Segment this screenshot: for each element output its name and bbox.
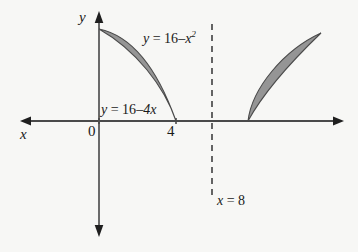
x-axis-arrow-left-icon: [20, 117, 31, 126]
x-axis-label: x: [20, 127, 27, 142]
line-equation-rest: 4x: [143, 102, 156, 117]
math-figure: y x 0 4 y = 16–x2 y = 16–4x x = 8: [0, 0, 358, 252]
y-axis-arrow-down-icon: [95, 225, 104, 237]
y-axis-arrow-up-icon: [95, 11, 104, 23]
x-axis: [20, 117, 344, 126]
curve-equation-exponent: 2: [191, 29, 196, 39]
x-tick-label-0: 0: [88, 124, 96, 139]
curve-equation-label: y = 16–x2: [143, 30, 196, 46]
line-equation-eq: = 16: [107, 102, 136, 117]
x-axis-arrow-right-icon: [333, 117, 344, 126]
curve-equation-eq: = 16: [149, 31, 178, 46]
shaded-region-right: [248, 33, 321, 121]
vertical-line-label: x = 8: [217, 194, 245, 208]
x-tick-label-4: 4: [167, 124, 175, 139]
line-equation-label: y = 16–4x: [101, 103, 156, 117]
y-axis-label: y: [79, 10, 86, 25]
vertical-line-rest: = 8: [223, 193, 245, 208]
